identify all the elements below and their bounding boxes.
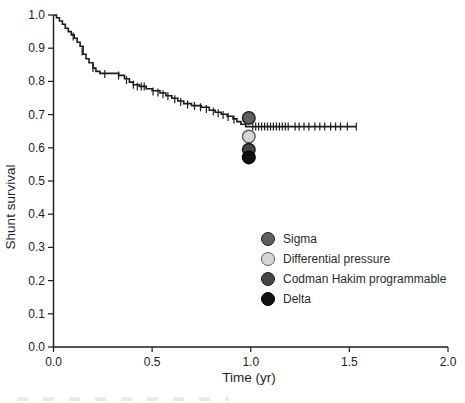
legend: SigmaDifferential pressureCodman Hakim p… bbox=[261, 229, 446, 309]
y-tick-label: 0.6 bbox=[28, 141, 45, 155]
legend-label: Sigma bbox=[283, 232, 317, 246]
y-tick-label: 0.0 bbox=[28, 340, 45, 354]
x-tick-label: 1.5 bbox=[341, 355, 358, 369]
legend-marker-icon bbox=[261, 232, 275, 246]
y-tick-label: 0.3 bbox=[28, 240, 45, 254]
endpoint-marker-differential-pressure bbox=[243, 130, 256, 143]
x-tick-label: 0.0 bbox=[45, 355, 62, 369]
y-tick-label: 0.7 bbox=[28, 108, 45, 122]
endpoint-marker-delta bbox=[243, 151, 256, 164]
legend-label: Differential pressure bbox=[283, 252, 390, 266]
figure-container: 0.00.10.20.30.40.50.60.70.80.91.00.00.51… bbox=[0, 0, 465, 403]
legend-row-delta: Delta bbox=[261, 289, 446, 309]
y-axis-label: Shunt survival bbox=[3, 165, 18, 250]
cropped-caption-fragment bbox=[17, 397, 229, 401]
y-tick-label: 0.1 bbox=[28, 307, 45, 321]
legend-label: Delta bbox=[283, 292, 311, 306]
kaplan-meier-survival-chart: 0.00.10.20.30.40.50.60.70.80.91.00.00.51… bbox=[0, 0, 465, 403]
y-tick-label: 0.2 bbox=[28, 274, 45, 288]
x-tick-label: 2.0 bbox=[440, 355, 457, 369]
x-axis-label: Time (yr) bbox=[222, 370, 276, 385]
legend-marker-icon bbox=[261, 292, 275, 306]
y-tick-label: 0.5 bbox=[28, 174, 45, 188]
y-tick-label: 0.4 bbox=[28, 207, 45, 221]
y-tick-label: 1.0 bbox=[28, 8, 45, 22]
legend-label: Codman Hakim programmable bbox=[283, 272, 446, 286]
legend-row-codman-hakim-programmable: Codman Hakim programmable bbox=[261, 269, 446, 289]
legend-marker-icon bbox=[261, 272, 275, 286]
legend-row-sigma: Sigma bbox=[261, 229, 446, 249]
x-tick-label: 0.5 bbox=[144, 355, 161, 369]
endpoint-marker-sigma bbox=[243, 112, 256, 125]
legend-row-differential-pressure: Differential pressure bbox=[261, 249, 446, 269]
y-tick-label: 0.8 bbox=[28, 74, 45, 88]
y-tick-label: 0.9 bbox=[28, 41, 45, 55]
x-tick-label: 1.0 bbox=[242, 355, 259, 369]
legend-marker-icon bbox=[261, 252, 275, 266]
survival-curve bbox=[54, 15, 357, 127]
